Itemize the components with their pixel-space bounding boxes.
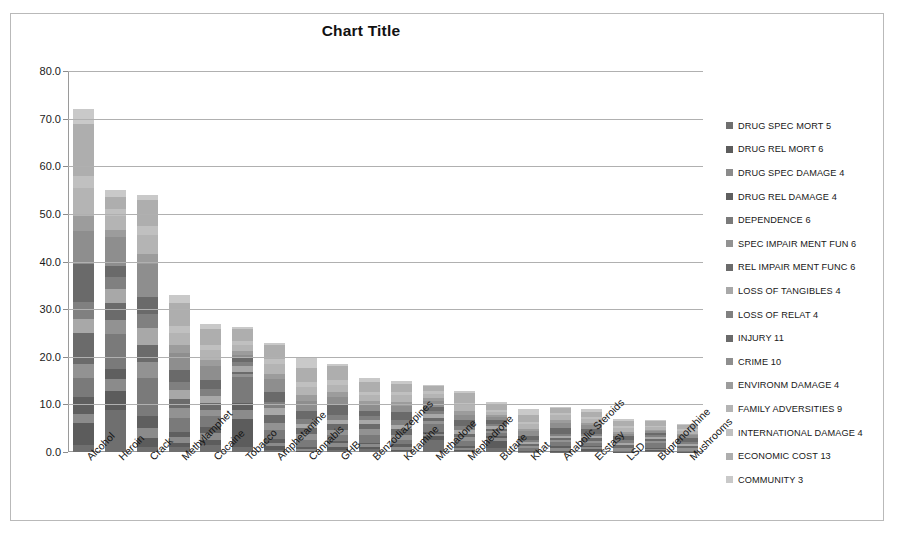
bar-segment xyxy=(169,390,190,399)
legend-swatch-icon xyxy=(726,335,733,342)
bar-segment xyxy=(73,333,94,364)
bar-segment xyxy=(169,418,190,432)
bar-segment xyxy=(73,423,94,444)
legend-item[interactable]: CRIME 10 xyxy=(726,350,886,374)
bar-column[interactable] xyxy=(137,195,158,452)
legend-label: DEPENDENCE 6 xyxy=(738,215,811,225)
legend: DRUG SPEC MORT 5DRUG REL MORT 6DRUG SPEC… xyxy=(726,114,886,492)
bar-segment xyxy=(105,379,126,391)
bar-segment xyxy=(137,200,158,226)
bar-segment xyxy=(169,326,190,333)
bar-segment xyxy=(169,295,190,303)
bar-segment xyxy=(169,353,190,370)
legend-label: DRUG REL DAMAGE 4 xyxy=(738,192,837,202)
bar-segment xyxy=(137,416,158,428)
y-tick-mark xyxy=(63,309,68,310)
bar-column[interactable] xyxy=(105,190,126,452)
legend-item[interactable]: REL IMPAIR MENT FUNC 6 xyxy=(726,256,886,280)
legend-swatch-icon xyxy=(726,429,733,436)
bar-segment xyxy=(264,379,285,391)
bar-column[interactable] xyxy=(73,109,94,452)
y-tick-label: 30.0 xyxy=(15,303,61,315)
y-tick-mark xyxy=(63,214,68,215)
legend-label: ECONOMIC COST 13 xyxy=(738,451,831,461)
legend-label: DRUG SPEC MORT 5 xyxy=(738,121,831,131)
bar-segment xyxy=(137,235,158,254)
bar-segment xyxy=(73,414,94,424)
legend-item[interactable]: COMMUNITY 3 xyxy=(726,468,886,492)
legend-swatch-icon xyxy=(726,193,733,200)
legend-item[interactable]: LOSS OF RELAT 4 xyxy=(726,303,886,327)
bar-segment xyxy=(359,382,380,392)
bar-segment xyxy=(200,350,221,360)
legend-swatch-icon xyxy=(726,217,733,224)
legend-item[interactable]: INJURY 11 xyxy=(726,326,886,350)
legend-swatch-icon xyxy=(726,382,733,389)
bar-column[interactable] xyxy=(169,295,190,452)
legend-label: SPEC IMPAIR MENT FUN 6 xyxy=(738,239,856,249)
bar-segment xyxy=(105,391,126,410)
gridline xyxy=(68,214,703,215)
legend-item[interactable]: ENVIRONM DAMAGE 4 xyxy=(726,374,886,398)
gridline xyxy=(68,119,703,120)
bar-segment xyxy=(73,264,94,302)
y-tick-label: 70.0 xyxy=(15,113,61,125)
bar-segment xyxy=(73,302,94,319)
bar-segment xyxy=(200,389,221,396)
bar-segment xyxy=(105,197,126,209)
legend-label: LOSS OF RELAT 4 xyxy=(738,310,818,320)
gridline xyxy=(68,262,703,263)
bar-segment xyxy=(296,368,317,382)
bar-segment xyxy=(169,303,190,327)
bar-segment xyxy=(232,377,253,403)
bar-segment xyxy=(518,415,539,422)
legend-label: INTERNATIONAL DAMAGE 4 xyxy=(738,428,863,438)
legend-item[interactable]: DRUG SPEC DAMAGE 4 xyxy=(726,161,886,185)
legend-item[interactable]: FAMILY ADVERSITIES 9 xyxy=(726,397,886,421)
y-axis: 0.010.020.030.040.050.060.070.080.0 xyxy=(11,71,61,452)
bar-segment xyxy=(200,329,221,345)
plot-area xyxy=(68,71,703,452)
bar-segment xyxy=(105,209,126,216)
legend-item[interactable]: LOSS OF TANGIBLES 4 xyxy=(726,279,886,303)
legend-item[interactable]: DRUG REL DAMAGE 4 xyxy=(726,185,886,209)
bar-segment xyxy=(264,415,285,423)
bar-segment xyxy=(137,378,158,416)
bar-segment xyxy=(169,370,190,382)
bar-segment xyxy=(73,397,94,414)
bar-segment xyxy=(232,410,253,419)
y-tick-label: 20.0 xyxy=(15,351,61,363)
legend-item[interactable]: ECONOMIC COST 13 xyxy=(726,444,886,468)
bar-segment xyxy=(73,124,94,176)
bar-segment xyxy=(327,385,348,393)
bar-segment xyxy=(264,392,285,402)
legend-swatch-icon xyxy=(726,287,733,294)
gridline xyxy=(68,357,703,358)
legend-label: DRUG SPEC DAMAGE 4 xyxy=(738,168,844,178)
legend-item[interactable]: DEPENDENCE 6 xyxy=(726,208,886,232)
bar-segment xyxy=(137,362,158,379)
bar-segment xyxy=(137,345,158,362)
y-tick-mark xyxy=(63,357,68,358)
bar-segment xyxy=(105,216,126,230)
bar-segment xyxy=(105,230,126,237)
bar-segment xyxy=(73,378,94,397)
legend-swatch-icon xyxy=(726,240,733,247)
bar-column[interactable] xyxy=(359,378,380,452)
bar-segment xyxy=(296,357,317,368)
legend-item[interactable]: INTERNATIONAL DAMAGE 4 xyxy=(726,421,886,445)
y-tick-label: 50.0 xyxy=(15,208,61,220)
legend-swatch-icon xyxy=(726,146,733,153)
y-tick-mark xyxy=(63,166,68,167)
legend-item[interactable]: DRUG REL MORT 6 xyxy=(726,138,886,162)
bar-segment xyxy=(105,334,126,369)
bar-segment xyxy=(105,369,126,378)
legend-swatch-icon xyxy=(726,476,733,483)
legend-item[interactable]: SPEC IMPAIR MENT FUN 6 xyxy=(726,232,886,256)
bar-segment xyxy=(137,264,158,297)
gridline xyxy=(68,166,703,167)
bar-segment xyxy=(73,364,94,378)
legend-item[interactable]: DRUG SPEC MORT 5 xyxy=(726,114,886,138)
y-tick-mark xyxy=(63,262,68,263)
bar-segment xyxy=(232,345,253,352)
